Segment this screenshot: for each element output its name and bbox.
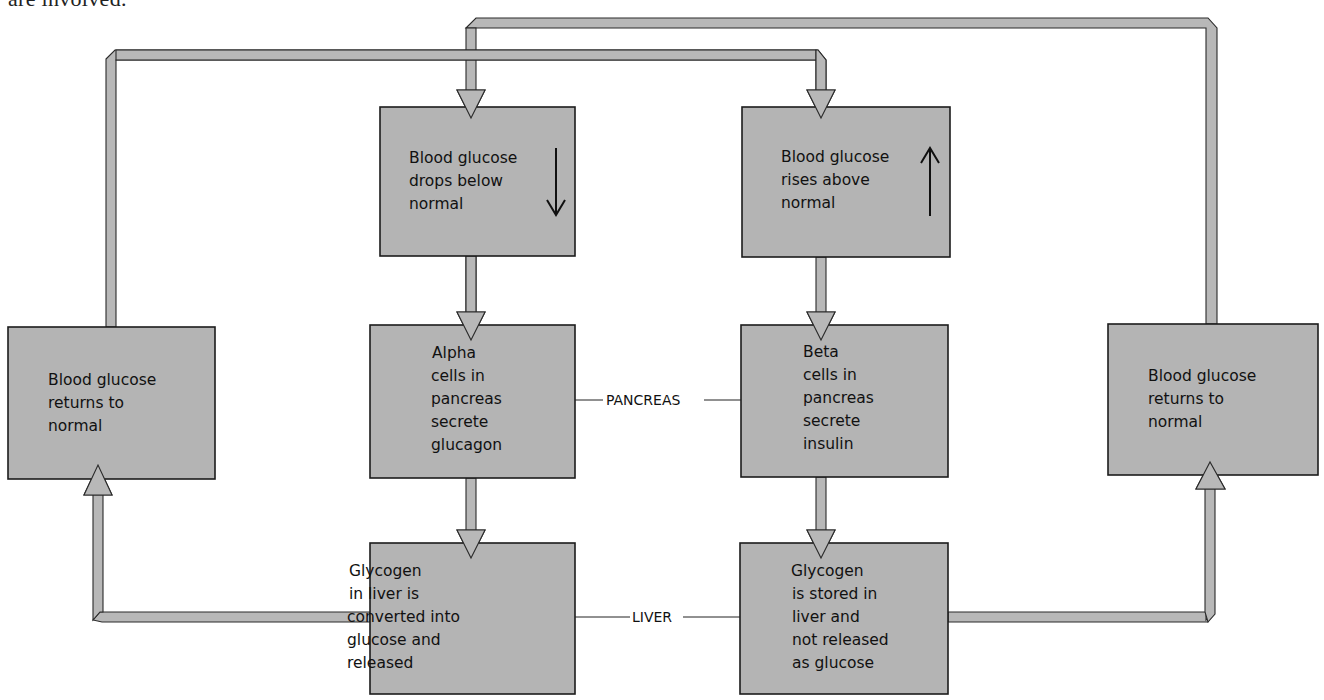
pipe-liver-to-left-return-h (93, 612, 370, 622)
pipe-drop-to-alpha (466, 256, 476, 316)
crossing-pipe-segment (116, 50, 816, 60)
liver-label: LIVER (632, 609, 672, 625)
glucose-regulation-diagram: Blood glucose drops below normal Blood g… (0, 0, 1324, 700)
pipe-liver-to-left-return-v (93, 492, 103, 620)
pancreas-label: PANCREAS (606, 392, 681, 408)
pipe-liver-to-right-return-h (948, 612, 1214, 622)
pipe-beta-to-liver (816, 477, 826, 535)
liver-connector: LIVER (575, 609, 740, 625)
pipe-alpha-to-liver (466, 478, 476, 536)
pipe-liver-to-right-return-v (1205, 488, 1215, 622)
pipe-rise-to-beta (816, 257, 826, 317)
pancreas-connector: PANCREAS (575, 392, 741, 408)
